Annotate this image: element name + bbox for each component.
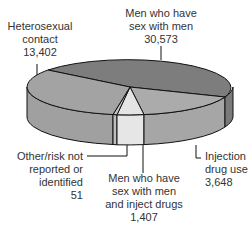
label-idu: Injection drug use 3,648 — [205, 150, 250, 189]
leader-idu — [196, 145, 201, 158]
label-heterosexual: Heterosexual contact 13,402 — [5, 20, 75, 59]
side-msm-idu — [117, 115, 144, 145]
label-msm: Men who have sex with men 30,573 — [125, 7, 197, 46]
side-other — [113, 115, 117, 145]
label-other: Other/risk not reported or identified 51 — [8, 150, 83, 202]
label-msm-idu: Men who have sex with men and inject dru… — [104, 172, 184, 224]
leader-other — [87, 145, 127, 156]
